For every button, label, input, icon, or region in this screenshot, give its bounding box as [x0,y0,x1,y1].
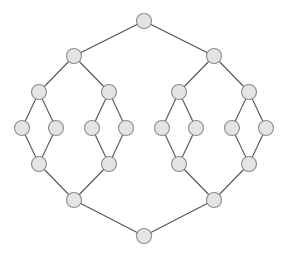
edge-n0-n2 [144,21,214,56]
lattice-diagram [0,0,287,256]
graph-node-n21 [137,229,152,244]
graph-node-n17 [172,157,187,172]
graph-node-n4 [102,85,117,100]
graph-node-n12 [189,121,204,136]
graph-node-n2 [207,49,222,64]
graph-node-n18 [242,157,257,172]
graph-node-n11 [155,121,170,136]
edge-n19-n21 [74,200,144,236]
graph-node-n6 [242,85,257,100]
graph-node-n7 [15,121,30,136]
graph-node-n10 [119,121,134,136]
graph-node-n19 [67,193,82,208]
graph-node-n1 [67,49,82,64]
edge-n0-n1 [74,21,144,56]
graph-node-n9 [85,121,100,136]
graph-node-n20 [207,193,222,208]
graph-node-n14 [259,121,274,136]
graph-node-n13 [225,121,240,136]
nodes-layer [15,14,274,244]
graph-node-n5 [172,85,187,100]
edge-n20-n21 [144,200,214,236]
graph-node-n8 [49,121,64,136]
graph-node-n15 [32,157,47,172]
graph-node-n16 [102,157,117,172]
graph-node-n0 [137,14,152,29]
graph-node-n3 [32,85,47,100]
